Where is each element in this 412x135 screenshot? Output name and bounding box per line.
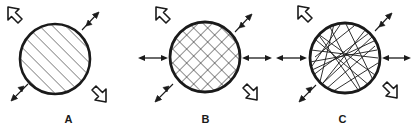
panel-b-drawing — [137, 0, 274, 110]
panel-c: C — [274, 0, 411, 135]
outline-arrow-northwest-icon — [298, 6, 312, 22]
double-headed-arrow-left-icon — [138, 55, 168, 61]
outline-arrow-southeast-icon — [92, 86, 106, 102]
outline-arrow-northwest-icon — [156, 7, 170, 23]
panel-a-drawing — [0, 0, 137, 110]
double-headed-arrow-right-icon — [242, 55, 272, 61]
panel-b: B — [137, 0, 274, 135]
figure-three-panel-circle-diagram: A — [0, 0, 412, 135]
solid-arrow-northeast-icon — [375, 13, 392, 31]
double-headed-arrow-left-icon — [276, 55, 307, 61]
panel-c-label: C — [274, 112, 411, 126]
panel-a: A — [0, 0, 137, 135]
hatch-fill-parallel — [21, 25, 89, 93]
outline-arrow-southeast-icon — [243, 84, 257, 100]
panel-a-label: A — [0, 112, 137, 126]
solid-arrow-northeast-icon — [82, 12, 99, 30]
solid-arrow-northeast-icon — [235, 14, 252, 32]
outline-arrow-northwest-icon — [8, 7, 22, 23]
panel-b-label: B — [137, 112, 274, 126]
panel-c-drawing — [274, 0, 411, 110]
solid-arrow-southwest-icon — [299, 85, 316, 102]
outline-arrow-southeast-icon — [383, 82, 397, 98]
solid-arrow-southwest-icon — [155, 84, 173, 102]
double-headed-arrow-right-icon — [382, 55, 411, 61]
solid-arrow-southwest-icon — [11, 84, 28, 101]
